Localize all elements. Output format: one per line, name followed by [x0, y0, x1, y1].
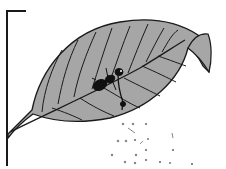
stand-bracket — [6, 11, 26, 166]
leaf-illustration — [0, 0, 226, 169]
falling-particles — [111, 123, 193, 165]
